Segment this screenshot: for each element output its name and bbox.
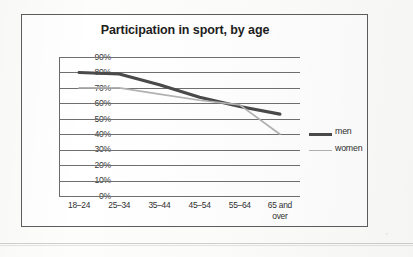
series-line-women [79, 88, 280, 134]
chart-legend: menwomen [309, 126, 373, 160]
data-series-layer [59, 57, 300, 196]
legend-item-women: women [309, 143, 373, 160]
legend-label-men: men [335, 126, 352, 136]
x-tick-label-line: over [256, 211, 304, 222]
page-horizontal-rule [0, 243, 413, 244]
series-line-men [79, 72, 280, 114]
scan-stray-mark: ' [386, 232, 387, 239]
gridline [59, 196, 300, 197]
x-tick-label-line: 65 and [256, 200, 304, 211]
page-horizontal-rule-secondary [0, 245, 413, 246]
legend-item-men: men [309, 126, 373, 143]
legend-swatch-men [309, 133, 332, 136]
x-tick-label: 65 andover [256, 200, 304, 221]
legend-swatch-women [309, 150, 332, 151]
legend-label-women: women [335, 143, 362, 153]
